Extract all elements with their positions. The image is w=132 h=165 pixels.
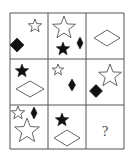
filled-star-icon <box>15 64 28 77</box>
cell-r2-c1 <box>54 113 80 146</box>
outline-diamond-icon <box>16 81 44 97</box>
outline-star-icon <box>11 106 24 119</box>
filled-diamond-icon <box>69 79 76 91</box>
cell-r1-c1 <box>52 64 75 91</box>
cell-r0-c2 <box>94 30 120 46</box>
cell-r0-c1 <box>53 16 83 55</box>
outline-star-icon <box>28 19 41 32</box>
outline-star-icon <box>99 64 122 86</box>
cell-r1-c2 <box>90 64 122 98</box>
matrix-puzzle: ? <box>0 0 132 165</box>
filled-diamond-icon <box>31 107 37 119</box>
outline-star-icon <box>52 64 63 75</box>
cell-r0-c0 <box>10 19 42 52</box>
cell-r2-c0 <box>11 106 39 142</box>
filled-diamond-icon <box>90 85 103 98</box>
missing-answer-question-mark: ? <box>102 124 108 139</box>
outline-diamond-icon <box>94 30 120 46</box>
filled-star-icon <box>56 42 69 55</box>
cell-r1-c0 <box>15 64 44 97</box>
filled-diamond-icon <box>10 38 24 52</box>
outline-diamond-icon <box>54 130 80 146</box>
outline-star-icon <box>53 16 76 38</box>
outline-star-icon <box>15 118 40 142</box>
filled-star-icon <box>55 113 68 126</box>
filled-diamond-icon <box>77 37 83 49</box>
